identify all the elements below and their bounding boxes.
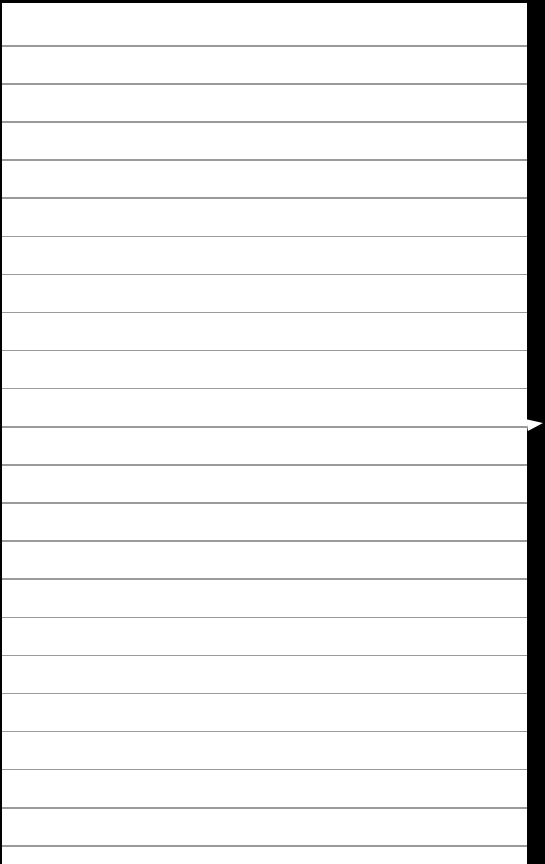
ruled-line xyxy=(2,197,527,199)
ruled-line xyxy=(2,502,527,504)
ruled-line xyxy=(2,312,527,314)
ruled-line xyxy=(2,578,527,580)
ruled-line xyxy=(2,45,527,47)
ruled-line xyxy=(2,617,527,619)
pointer-arrow-icon xyxy=(526,417,544,431)
ruled-line xyxy=(2,540,527,542)
ruled-line xyxy=(2,388,527,390)
ruled-line xyxy=(2,159,527,161)
ruled-line xyxy=(2,693,527,695)
ruled-line xyxy=(2,426,527,428)
right-edge-strip xyxy=(527,0,545,864)
ruled-line xyxy=(2,845,527,847)
ruled-line xyxy=(2,769,527,771)
ruled-line xyxy=(2,236,527,238)
ruled-line xyxy=(2,464,527,466)
ruled-line xyxy=(2,731,527,733)
ruled-line xyxy=(2,350,527,352)
ruled-line xyxy=(2,274,527,276)
ruled-line xyxy=(2,121,527,123)
ruled-line xyxy=(2,655,527,657)
lined-paper-page xyxy=(2,3,527,864)
ruled-line xyxy=(2,807,527,809)
ruled-line xyxy=(2,83,527,85)
